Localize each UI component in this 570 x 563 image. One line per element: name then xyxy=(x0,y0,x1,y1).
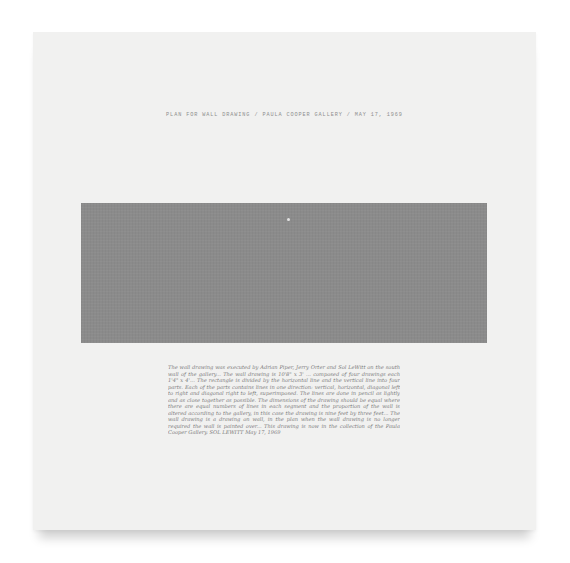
paper-sheet: PLAN FOR WALL DRAWING / PAULA COOPER GAL… xyxy=(33,32,536,530)
center-dot xyxy=(287,218,290,221)
drawing-title: PLAN FOR WALL DRAWING / PAULA COOPER GAL… xyxy=(33,112,536,118)
graphite-rectangle xyxy=(81,203,487,343)
notes-text: The wall drawing was executed by Adrian … xyxy=(168,364,400,436)
artwork-photo: PLAN FOR WALL DRAWING / PAULA COOPER GAL… xyxy=(0,0,570,563)
handwritten-notes: The wall drawing was executed by Adrian … xyxy=(168,364,400,499)
